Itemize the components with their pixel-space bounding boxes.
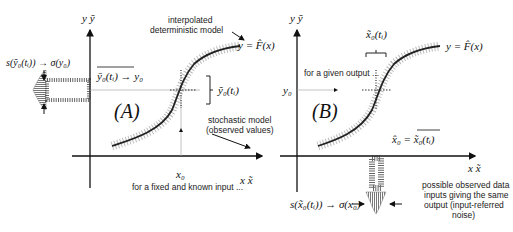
axis-x-label-b: x x̃ [467, 162, 481, 174]
estimate-label-b: x̂₀ = x̃₀(tᵢ) [391, 133, 435, 146]
interp-label-1: interpolated [168, 15, 213, 25]
note-line-3: output (input-referred [424, 200, 504, 210]
panel-label-a: (A) [114, 100, 140, 123]
spread-label-a: ỹ₀(tᵢ) [217, 84, 239, 97]
note-line-4: noise) [452, 210, 475, 220]
sigma-label-b: s(x̃₀(tᵢ)) → σ(x₀) [290, 198, 361, 211]
axis-y-label-b: y ỹ [289, 12, 304, 24]
spread-label-b: x̃₀(tᵢ) [365, 28, 387, 41]
note-line-1: possible observed data [422, 180, 510, 190]
stoch-label-1: stochastic model [208, 115, 271, 125]
model-label-a: y = F̂(x) [237, 39, 275, 52]
note-line-2: inputs giving the same [424, 190, 509, 200]
caption-a: for a fixed and known input ... [132, 182, 243, 192]
stoch-label-2: (observed values) [206, 125, 274, 135]
model-curve-b [318, 46, 440, 146]
panel-label-b: (B) [312, 100, 338, 123]
caption-b: for a given output ... [304, 68, 379, 78]
diagram-canvas: y ỹ x x̃ x₀ ȳ₀(tᵢ) → y₀ ỹ₀(tᵢ) s(ỹ₀(tᵢ))… [0, 0, 513, 232]
mean-label-a: ȳ₀(tᵢ) → y₀ [96, 70, 143, 83]
measurement-model-diagram: y ỹ x x̃ x₀ ȳ₀(tᵢ) → y₀ ỹ₀(tᵢ) s(ỹ₀(tᵢ))… [0, 0, 513, 232]
interp-label-2: deterministic model [150, 25, 223, 35]
y0-label: y₀ [282, 84, 292, 96]
distribution-b [366, 192, 386, 214]
x0-label: x₀ [175, 168, 185, 180]
model-label-b: y = F̂(x) [445, 40, 483, 53]
axis-y-label-a: y ỹ [81, 12, 96, 24]
panel-a [33, 30, 262, 188]
sigma-label-a: s(ỹ₀(tᵢ)) → σ(y₀) [6, 57, 71, 69]
